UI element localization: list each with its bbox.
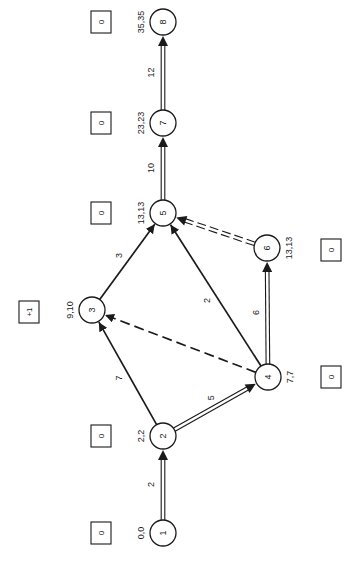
node-times-label: 0,0 xyxy=(136,527,146,540)
node-4: 47,7 xyxy=(255,364,295,390)
edges-layer: 2753261012 xyxy=(99,36,272,520)
float-box-2: 0 xyxy=(91,425,111,447)
edge-6-5 xyxy=(176,216,255,246)
network-diagram: 2753261012 10,022,239,1047,7513,13613,13… xyxy=(0,0,352,567)
edge-7-8: 12 xyxy=(146,36,168,110)
node-3: 39,10 xyxy=(65,297,105,323)
edge-duration-label: 10 xyxy=(146,163,156,173)
arrowhead-icon xyxy=(262,262,272,272)
edge-1-2: 2 xyxy=(146,450,168,520)
float-box-6: 0 xyxy=(321,239,341,261)
edge-duration-label: 5 xyxy=(206,395,216,400)
float-value: 0 xyxy=(97,120,106,125)
float-box-1: 0 xyxy=(91,522,111,544)
node-number: 3 xyxy=(87,307,97,312)
node-5: 513,13 xyxy=(136,200,176,226)
arrowhead-icon xyxy=(158,36,168,46)
node-2: 22,2 xyxy=(136,423,176,449)
node-times-label: 35,35 xyxy=(136,11,146,34)
node-number: 5 xyxy=(158,210,168,215)
nodes-layer: 10,022,239,1047,7513,13613,13723,23835,3… xyxy=(65,9,295,546)
float-value: 0 xyxy=(97,210,106,215)
edge-2-3: 7 xyxy=(99,322,157,424)
float-value: 0 xyxy=(327,374,336,379)
node-6: 613,13 xyxy=(254,235,294,261)
float-box-4: 0 xyxy=(321,366,341,388)
node-7: 723,23 xyxy=(136,110,176,136)
node-1: 10,0 xyxy=(136,520,176,546)
float-value: 0 xyxy=(97,530,106,535)
float-box-7: 0 xyxy=(91,112,111,134)
node-8: 835,35 xyxy=(136,9,176,35)
edge-duration-label: 2 xyxy=(146,482,156,487)
edge-duration-label: 3 xyxy=(114,253,124,258)
node-number: 4 xyxy=(263,374,273,379)
node-number: 6 xyxy=(262,245,272,250)
float-value: +1 xyxy=(25,307,34,317)
node-number: 8 xyxy=(158,19,168,24)
float-box-3: +1 xyxy=(19,301,39,323)
float-boxes-layer: 00+100000 xyxy=(19,11,341,544)
float-value: 0 xyxy=(97,433,106,438)
node-times-label: 7,7 xyxy=(285,371,295,384)
node-times-label: 2,2 xyxy=(136,430,146,443)
node-number: 1 xyxy=(158,530,168,535)
edge-duration-label: 12 xyxy=(146,67,156,77)
edge-duration-label: 7 xyxy=(114,375,124,380)
node-times-label: 13,13 xyxy=(284,237,294,260)
edge-4-6: 6 xyxy=(251,262,273,364)
edge-duration-label: 2 xyxy=(202,298,212,303)
float-box-5: 0 xyxy=(91,202,111,224)
node-number: 7 xyxy=(158,120,168,125)
arrowhead-icon xyxy=(176,216,187,225)
arrowhead-icon xyxy=(158,137,168,147)
node-times-label: 23,23 xyxy=(136,112,146,135)
edge-5-7: 10 xyxy=(146,137,168,200)
node-times-label: 13,13 xyxy=(136,202,146,225)
arrowhead-icon xyxy=(158,450,168,460)
edge-2-4: 5 xyxy=(173,384,255,431)
float-value: 0 xyxy=(327,247,336,252)
edge-duration-label: 6 xyxy=(251,310,261,315)
float-box-8: 0 xyxy=(91,11,111,33)
edge-3-5: 3 xyxy=(100,224,155,299)
node-number: 2 xyxy=(158,433,168,438)
node-times-label: 9,10 xyxy=(65,301,75,319)
float-value: 0 xyxy=(97,19,106,24)
